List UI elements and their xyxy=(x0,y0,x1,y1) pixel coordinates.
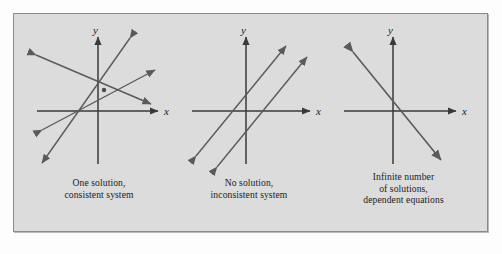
intersection-point-panel-1 xyxy=(102,88,106,92)
caption-line: consistent system xyxy=(24,189,174,201)
line-2-panel-2 xyxy=(217,57,307,167)
caption-line: of solutions, xyxy=(326,183,481,195)
graph-one-solution: x y xyxy=(36,24,169,164)
line-1-panel-2 xyxy=(196,46,286,156)
graph-no-solution: x y xyxy=(192,24,321,167)
line-1-panel-1 xyxy=(42,38,130,163)
caption-line: dependent equations xyxy=(326,194,481,206)
graph-infinite-solutions: x y xyxy=(344,24,467,164)
caption-infinite-solutions: Infinite number of solutions, dependent … xyxy=(326,171,481,206)
line-2-panel-1 xyxy=(42,70,155,130)
x-axis-label-panel-3: x xyxy=(461,105,467,117)
x-axis-label-panel-1: x xyxy=(163,105,169,117)
y-axis-label-panel-2: y xyxy=(240,24,246,36)
caption-line: One solution, xyxy=(24,177,174,189)
caption-line: Infinite number xyxy=(326,171,481,183)
line-3-panel-1 xyxy=(36,55,151,104)
caption-line: inconsistent system xyxy=(174,189,324,201)
y-axis-label-panel-1: y xyxy=(92,24,98,36)
figure-panel: x y x y x y One solution, xyxy=(13,13,488,232)
caption-no-solution: No solution, inconsistent system xyxy=(174,177,324,200)
figure-root: x y x y x y One solution, xyxy=(0,0,502,254)
x-axis-label-panel-2: x xyxy=(315,105,321,117)
caption-one-solution: One solution, consistent system xyxy=(24,177,174,200)
line-1-panel-3 xyxy=(353,52,441,160)
y-axis-label-panel-3: y xyxy=(387,24,393,36)
caption-line: No solution, xyxy=(174,177,324,189)
